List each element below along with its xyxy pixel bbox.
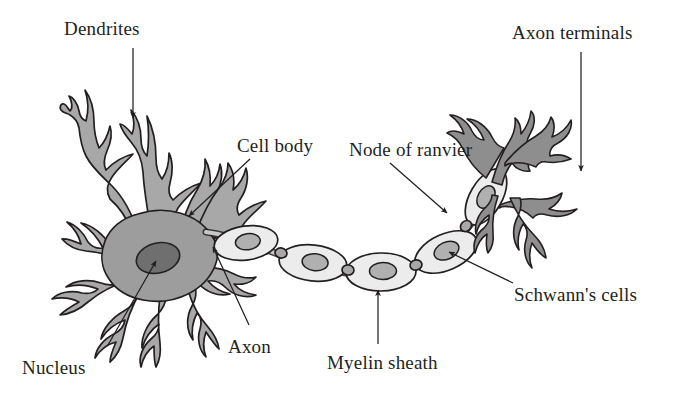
myelin-segment: [409, 222, 484, 282]
label-cell-body: Cell body: [237, 135, 313, 157]
myelin-segment: [346, 252, 417, 291]
dendrite-branch: [140, 296, 166, 367]
label-axon-terminals: Axon terminals: [512, 22, 632, 44]
schwanns-cells-leader: [449, 252, 513, 283]
label-nucleus: Nucleus: [22, 357, 86, 379]
label-dendrites: Dendrites: [64, 18, 140, 40]
myelinated-axon: [206, 162, 515, 291]
myelin-segment: [277, 242, 348, 285]
diagram-canvas: Dendrites Axon terminals Cell body Node …: [0, 0, 681, 415]
label-schwanns-cells: Schwann's cells: [514, 284, 637, 306]
dendrite-branch: [188, 287, 219, 357]
dendrite-branch: [95, 292, 140, 362]
label-axon: Axon: [228, 336, 271, 358]
label-myelin-sheath: Myelin sheath: [327, 352, 438, 374]
cell-body-soma: [102, 210, 217, 301]
terminal-branch: [499, 193, 577, 218]
dendrite-branch: [60, 90, 138, 232]
label-node-of-ranvier: Node of ranvier: [349, 139, 472, 161]
node-of-ranvier-leader: [390, 163, 447, 213]
